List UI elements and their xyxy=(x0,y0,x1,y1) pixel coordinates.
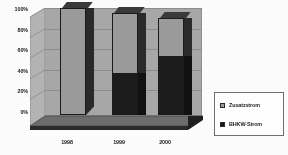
y-tick-100: 100% xyxy=(15,6,28,12)
legend-swatch-zusatzstrom-icon xyxy=(220,103,225,108)
chart-floor xyxy=(30,115,202,134)
bar-1999[interactable] xyxy=(112,13,138,115)
bar-1999-segment-zusatzstrom xyxy=(112,13,138,73)
legend-swatch-bhkw-strom-icon xyxy=(220,122,225,127)
bar-1998[interactable] xyxy=(60,8,86,115)
x-tick-1998: 1998 xyxy=(47,139,87,145)
bar-1998-right-face xyxy=(86,8,94,115)
legend-item-bhkw-strom[interactable]: BHKW-Strom xyxy=(220,121,262,127)
y-axis: 100% 80% 60% 40% 20% 0% xyxy=(0,0,28,140)
chart-figure: 100% 80% 60% 40% 20% 0% xyxy=(0,0,288,155)
bar-1998-segment-zusatzstrom xyxy=(60,8,86,115)
x-tick-1999: 1999 xyxy=(99,139,139,145)
chart-legend: Zusatzstrom BHKW-Strom xyxy=(214,92,284,136)
bar-1999-segment-bhkw xyxy=(112,73,138,115)
y-tick-40: 40% xyxy=(18,68,29,74)
legend-item-zusatzstrom[interactable]: Zusatzstrom xyxy=(220,102,260,108)
legend-label-bhkw-strom: BHKW-Strom xyxy=(229,121,262,127)
x-tick-2000: 2000 xyxy=(145,139,185,145)
bar-1999-right-face-bhkw xyxy=(138,73,146,115)
legend-label-zusatzstrom: Zusatzstrom xyxy=(229,102,260,108)
y-tick-60: 60% xyxy=(18,47,29,53)
plot-area xyxy=(30,8,202,133)
y-tick-80: 80% xyxy=(18,27,29,33)
bar-2000-segment-bhkw xyxy=(158,56,184,115)
bar-2000-segment-zusatzstrom xyxy=(158,18,184,57)
y-tick-20: 20% xyxy=(18,88,29,94)
y-tick-0: 0% xyxy=(20,109,28,115)
bar-2000-right-face-bhkw xyxy=(184,56,192,115)
bar-2000[interactable] xyxy=(158,18,184,115)
